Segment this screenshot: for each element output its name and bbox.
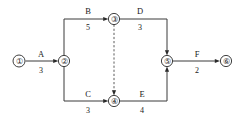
activity-f-name: F (195, 49, 200, 59)
activity-c-name: C (85, 89, 91, 99)
network-diagram-canvas: ① ② ③ ④ ⑤ ⑥ A 3 B 5 (0, 0, 239, 123)
node-2[interactable]: ② (58, 55, 69, 66)
edge-activity-f (173, 59, 220, 63)
label-activity-f: F 2 (195, 49, 200, 75)
label-activity-a: A 3 (38, 49, 45, 75)
node-3[interactable]: ③ (108, 13, 119, 24)
edge-dummy-3-4 (112, 25, 116, 96)
node-3-label: ③ (111, 15, 118, 24)
node-1[interactable]: ① (13, 55, 25, 67)
arrow-head-dummy (112, 90, 116, 95)
activity-e-duration: 4 (140, 106, 144, 115)
arrow-head-b (103, 17, 108, 21)
label-activity-c: C 3 (85, 89, 91, 115)
activity-e-name: E (139, 89, 144, 99)
activity-b-name: B (85, 6, 91, 16)
activity-f-duration: 2 (195, 66, 199, 75)
arrow-head-f (215, 59, 220, 63)
node-4[interactable]: ④ (108, 95, 119, 106)
edge-activity-a (26, 59, 59, 63)
node-2-label: ② (61, 57, 68, 66)
activity-d-duration: 3 (138, 23, 142, 32)
activity-b-duration: 5 (86, 23, 90, 32)
network-diagram: ① ② ③ ④ ⑤ ⑥ A 3 B 5 (0, 0, 239, 123)
activity-c-duration: 3 (86, 106, 90, 115)
arrow-head-c (103, 99, 108, 103)
arrow-head-e (165, 67, 169, 72)
node-5-label: ⑤ (164, 57, 171, 66)
edge-activity-d (120, 19, 170, 55)
arrow-head-d (165, 50, 169, 55)
activity-d-name: D (137, 6, 143, 16)
edge-line-d (120, 19, 167, 52)
node-1-label: ① (16, 57, 23, 66)
arrow-head-a (53, 59, 58, 63)
label-activity-e: E 4 (139, 89, 144, 115)
node-4-label: ④ (111, 97, 118, 106)
edge-line-b (64, 19, 105, 56)
node-6-label: ⑥ (223, 57, 230, 66)
activity-a-name: A (38, 49, 45, 59)
activity-a-duration: 3 (39, 66, 43, 75)
node-5[interactable]: ⑤ (161, 55, 172, 66)
node-6[interactable]: ⑥ (220, 55, 231, 66)
